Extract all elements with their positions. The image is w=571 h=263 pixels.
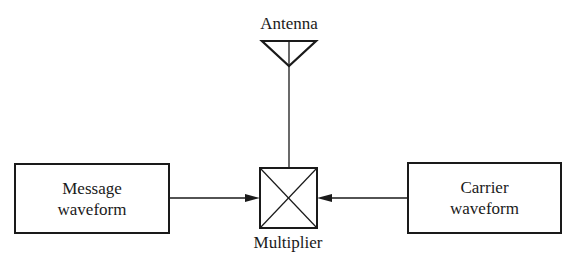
carrier-waveform-box: Carrier waveform [407, 162, 562, 234]
antenna-label: Antenna [239, 14, 339, 34]
message-line2: waveform [58, 199, 127, 220]
carrier-line1: Carrier [460, 177, 508, 198]
carrier-line2: waveform [450, 198, 519, 219]
arrow-left-icon [317, 194, 332, 202]
message-waveform-box: Message waveform [14, 163, 170, 234]
multiplier-label: Multiplier [238, 233, 338, 253]
message-line1: Message [62, 178, 121, 199]
arrow-right-icon [245, 194, 260, 202]
